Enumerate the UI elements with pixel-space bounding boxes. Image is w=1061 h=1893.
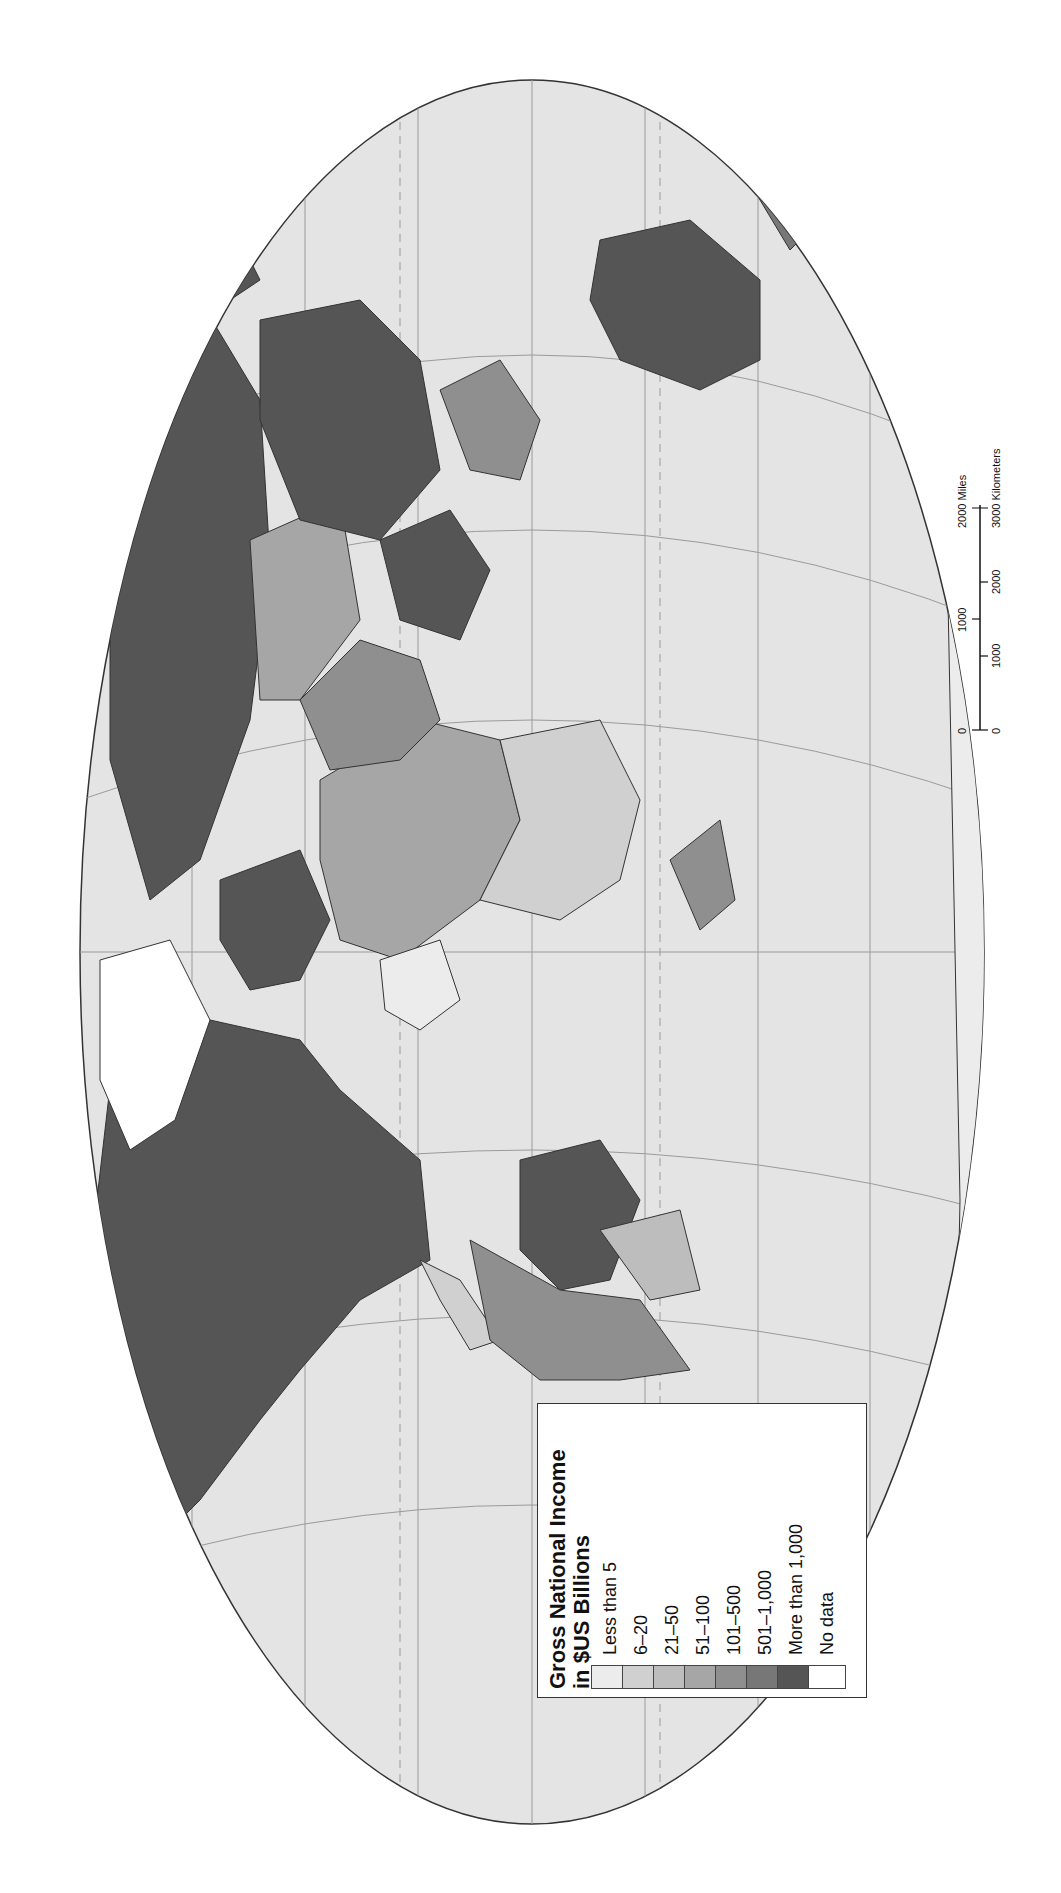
legend-label: More than 1,000 <box>786 1524 807 1655</box>
scale-km-0: 0 <box>990 728 1002 734</box>
legend: Gross National Income in $US Billions Le… <box>537 1403 867 1698</box>
legend-label: 101–500 <box>724 1585 745 1655</box>
legend-item: 501–1,000 <box>750 1414 780 1689</box>
legend-item: No data <box>812 1414 842 1689</box>
legend-item: 6–20 <box>626 1414 656 1689</box>
legend-label: 21–50 <box>662 1605 683 1655</box>
legend-label: Less than 5 <box>600 1562 621 1655</box>
scale-bar: 0 1000 2000 Miles 0 1000 2000 3000 Kilom… <box>950 480 1010 740</box>
legend-item: 101–500 <box>719 1414 749 1689</box>
scale-miles-0: 0 <box>956 728 968 734</box>
legend-title-line1: Gross National Income <box>546 1414 570 1689</box>
scale-miles-1000: 1000 <box>956 608 968 632</box>
world-map <box>0 0 1061 1893</box>
scale-km-3000: 3000 Kilometers <box>990 449 1002 529</box>
legend-title-line2: in $US Billions <box>570 1414 594 1689</box>
legend-items: Less than 56–2021–5051–100101–500501–1,0… <box>595 1414 842 1689</box>
legend-item: 21–50 <box>657 1414 687 1689</box>
legend-swatch <box>808 1665 846 1689</box>
legend-label: No data <box>817 1592 838 1655</box>
legend-item: 51–100 <box>688 1414 718 1689</box>
scale-km-1000: 1000 <box>990 644 1002 668</box>
scale-km-2000: 2000 <box>990 570 1002 594</box>
legend-item: Less than 5 <box>595 1414 625 1689</box>
legend-label: 51–100 <box>693 1595 714 1655</box>
legend-label: 501–1,000 <box>755 1570 776 1655</box>
scale-miles-2000: 2000 Miles <box>956 475 968 528</box>
legend-item: More than 1,000 <box>781 1414 811 1689</box>
legend-label: 6–20 <box>631 1615 652 1655</box>
